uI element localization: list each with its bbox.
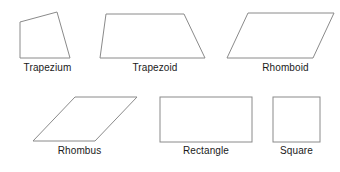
shape-label-square: Square	[268, 145, 325, 156]
square-outline	[273, 97, 320, 142]
quadrilaterals-diagram: Trapezium Trapezoid Rhomboid Rhombus Rec…	[0, 0, 340, 172]
